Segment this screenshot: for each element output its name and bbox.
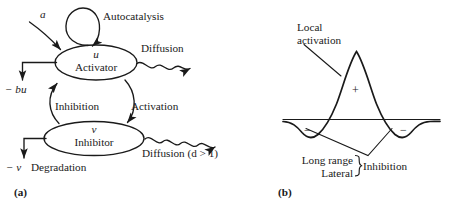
inhibitor-symbol: v: [74, 124, 114, 135]
panel-a-caption: (a): [14, 187, 27, 198]
local-activation-label-line1: Local: [297, 22, 322, 33]
inhibition-label: Inhibition: [55, 101, 99, 112]
minus-sign-right-label: −: [400, 124, 407, 136]
panel-b-caption: (b): [278, 187, 292, 198]
autocatalysis-loop: [66, 8, 100, 46]
inhibitor-decay-arrow: [24, 139, 46, 159]
minus-sign-left-label: −: [304, 124, 311, 136]
plus-sign-label: +: [352, 84, 359, 96]
figure-container: a Autocatalysis − bu u Activator Diffusi…: [0, 0, 450, 210]
inhibitor-decay-label: − v: [6, 162, 21, 173]
lateral-label: Lateral: [287, 168, 353, 179]
activator-symbol: u: [76, 49, 116, 60]
degradation-label: Degradation: [31, 162, 86, 173]
autocatalysis-label: Autocatalysis: [103, 11, 164, 22]
activator-diffusion-wave: [137, 62, 190, 69]
panel-b-inhibition-label: Inhibition: [363, 161, 407, 172]
activator-decay-arrow: [23, 63, 57, 81]
activation-label: Activation: [131, 101, 178, 112]
local-activation-label-line2: activation: [297, 35, 341, 46]
activator-decay-label: − bu: [5, 84, 27, 95]
source-a-arrow: [30, 22, 61, 50]
long-range-label: Long range: [287, 155, 353, 166]
source-a-label: a: [40, 9, 46, 20]
brace-glyph: [356, 156, 363, 176]
inhibitor-name: Inhibitor: [64, 137, 124, 148]
activator-name: Activator: [66, 62, 126, 73]
inhibitor-diffusion-label: Diffusion (d > 1): [142, 148, 218, 159]
local-activation-leader: [304, 45, 341, 77]
activator-diffusion-label: Diffusion: [141, 43, 184, 54]
